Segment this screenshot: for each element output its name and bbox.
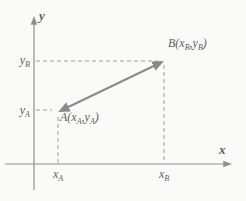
y-axis-label: y xyxy=(39,9,45,23)
tick-label-yB: yB xyxy=(4,53,30,69)
coordinate-plane xyxy=(0,0,246,201)
tick-label-yA: yA xyxy=(4,103,30,119)
segment-ab xyxy=(61,63,161,111)
diagram-canvas: y x yB yA xA xB A(xA,yA) B(xB,yB) xyxy=(0,0,246,201)
x-axis-label: x xyxy=(219,143,226,157)
point-a-label: A(xA,yA) xyxy=(60,110,99,126)
point-b-label: B(xB,yB) xyxy=(168,36,207,52)
tick-label-xA: xA xyxy=(45,167,71,183)
tick-label-xB: xB xyxy=(151,167,177,183)
